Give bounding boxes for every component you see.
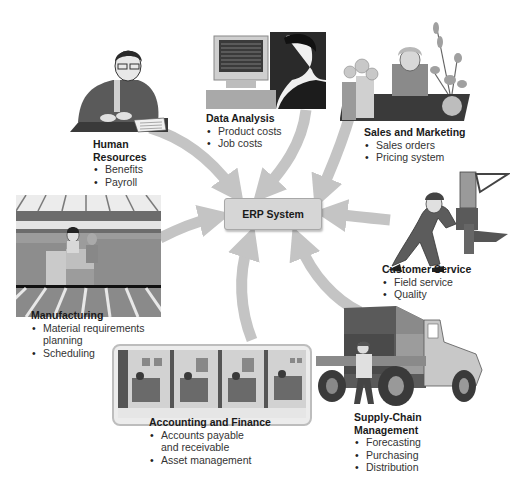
node-item: Purchasing bbox=[354, 449, 422, 462]
node-title-line: Sales and Marketing bbox=[364, 126, 466, 139]
node-item-line: planning bbox=[43, 334, 83, 346]
node-item-line: and receivable bbox=[161, 441, 229, 453]
node-sales-and-marketing: Sales and Marketing Sales orders Pricing… bbox=[364, 126, 466, 164]
node-data-analysis: Data Analysis Product costs Job costs bbox=[206, 112, 282, 150]
node-title-line: Data Analysis bbox=[206, 112, 282, 125]
node-item-line: Material requirements bbox=[43, 322, 145, 334]
node-title-line: Customer Service bbox=[382, 263, 471, 276]
node-title-line: Manufacturing bbox=[31, 309, 145, 322]
data-analysis-illustration bbox=[206, 30, 326, 109]
erp-system-box: ERP System bbox=[224, 198, 322, 230]
node-item: Forecasting bbox=[354, 436, 422, 449]
node-item: Scheduling bbox=[31, 347, 145, 360]
node-items: Benefits Payroll bbox=[93, 163, 147, 188]
supply-chain-illustration bbox=[316, 306, 506, 408]
node-supply-chain-management: Supply-Chain Management Forecasting Purc… bbox=[354, 411, 422, 474]
node-item: Product costs bbox=[206, 125, 282, 138]
node-items: Product costs Job costs bbox=[206, 125, 282, 150]
node-items: Field service Quality bbox=[382, 276, 471, 301]
node-item: Asset management bbox=[149, 454, 271, 467]
node-items: Accounts payable and receivable Asset ma… bbox=[149, 429, 271, 467]
node-item: Distribution bbox=[354, 461, 422, 474]
node-item: Accounts payable and receivable bbox=[149, 429, 271, 454]
node-customer-service: Customer Service Field service Quality bbox=[382, 263, 471, 301]
hr-illustration bbox=[68, 44, 170, 134]
sales-marketing-illustration bbox=[340, 14, 470, 121]
node-title-line: Supply-Chain bbox=[354, 411, 422, 424]
arrow-accounting-to-erp bbox=[242, 245, 252, 340]
node-accounting-and-finance: Accounting and Finance Accounts payable … bbox=[149, 416, 271, 466]
node-item: Pricing system bbox=[364, 151, 466, 164]
erp-system-label: ERP System bbox=[242, 208, 304, 220]
arrow-supply-chain-to-erp bbox=[300, 245, 360, 312]
node-title-line: Management bbox=[354, 424, 422, 437]
manufacturing-illustration bbox=[16, 195, 161, 317]
node-title-line: Human bbox=[93, 138, 147, 151]
arrow-manufacturing-to-erp bbox=[160, 218, 212, 238]
arrow-sales-to-erp bbox=[322, 115, 350, 190]
node-items: Sales orders Pricing system bbox=[364, 139, 466, 164]
node-item: Sales orders bbox=[364, 139, 466, 152]
node-item: Job costs bbox=[206, 137, 282, 150]
node-items: Forecasting Purchasing Distribution bbox=[354, 436, 422, 474]
customer-service-illustration bbox=[360, 170, 510, 276]
node-title-line: Resources bbox=[93, 151, 147, 164]
node-item: Field service bbox=[382, 276, 471, 289]
node-item: Benefits bbox=[93, 163, 147, 176]
node-title-line: Accounting and Finance bbox=[149, 416, 271, 429]
node-item-line: Accounts payable bbox=[161, 429, 244, 441]
node-manufacturing: Manufacturing Material requirements plan… bbox=[31, 309, 145, 359]
node-item: Quality bbox=[382, 288, 471, 301]
node-items: Material requirements planning Schedulin… bbox=[31, 322, 145, 360]
node-human-resources: Human Resources Benefits Payroll bbox=[93, 138, 147, 188]
node-item: Payroll bbox=[93, 176, 147, 189]
node-item: Material requirements planning bbox=[31, 322, 145, 347]
